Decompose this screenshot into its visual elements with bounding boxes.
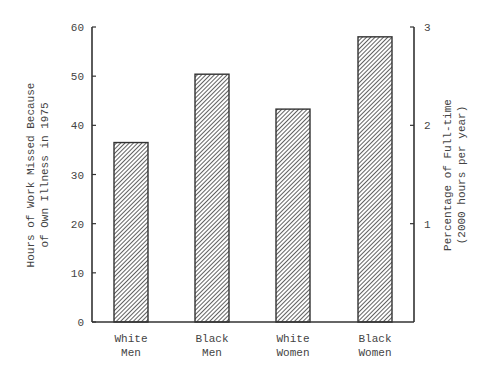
bar-white-women <box>276 109 310 322</box>
right-axis-title-line2: (2000 hours per year) <box>456 106 468 245</box>
left-tick-label: 40 <box>71 120 84 132</box>
right-tick-label: 2 <box>424 120 431 132</box>
category-label-line1: White <box>276 333 309 345</box>
left-tick-label: 60 <box>71 22 84 34</box>
left-tick-label: 0 <box>77 317 84 329</box>
left-axis-title-line1: Hours of Work Missed Because <box>25 83 37 268</box>
bar-black-men <box>195 74 229 322</box>
category-label-line1: Black <box>358 333 391 345</box>
category-label-line1: Black <box>195 333 228 345</box>
bar-black-women <box>358 37 392 322</box>
category-label-line2: Women <box>276 347 309 359</box>
bars-group <box>114 37 392 322</box>
left-tick-label: 30 <box>71 170 84 182</box>
right-tick-label: 1 <box>424 219 431 231</box>
bar-white-men <box>114 143 148 322</box>
left-tick-label: 10 <box>71 268 84 280</box>
right-tick-label: 3 <box>424 22 431 34</box>
category-label-line1: White <box>114 333 147 345</box>
right-axis-title-line1: Percentage of Full-time <box>442 99 454 251</box>
category-label-line2: Men <box>202 347 222 359</box>
left-tick-label: 20 <box>71 219 84 231</box>
left-axis-title-line2: of Own Illness in 1975 <box>39 102 51 247</box>
left-tick-label: 50 <box>71 71 84 83</box>
bar-chart: WhiteMenBlackMenWhiteWomenBlackWomen0102… <box>0 0 494 377</box>
category-label-line2: Men <box>121 347 141 359</box>
category-label-line2: Women <box>358 347 391 359</box>
